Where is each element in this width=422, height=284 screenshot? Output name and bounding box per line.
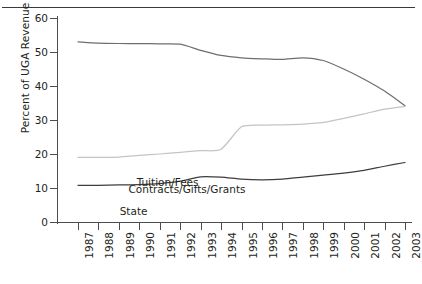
series-line-state [78, 42, 405, 106]
series-label-state: State [120, 205, 148, 217]
series-label-tuition-fees: Tuition/Fees [137, 176, 199, 188]
series-line-contracts-gifts-grants [78, 106, 405, 157]
series-line-tuition-fees [78, 163, 405, 186]
